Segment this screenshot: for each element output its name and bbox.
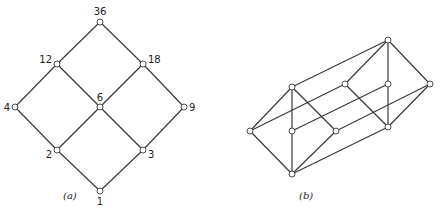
node-label-12: 12	[39, 54, 52, 65]
edge-3-1	[100, 150, 143, 191]
edge-2-1	[57, 150, 100, 191]
edge-T1-T2	[292, 40, 388, 87]
node-T2	[385, 37, 391, 43]
node-C1	[289, 128, 295, 134]
edge-R2-B2	[388, 84, 430, 127]
node-T1	[289, 84, 295, 90]
edge-6-3	[100, 107, 143, 150]
node-36	[97, 19, 103, 25]
node-L2	[342, 81, 348, 87]
node-R2	[427, 81, 433, 87]
lattice-figure: 361218469231 (a) (b)	[0, 0, 440, 211]
node-18	[140, 61, 146, 67]
edge-L2-B2	[345, 84, 388, 127]
node-2	[54, 147, 60, 153]
node-B1	[289, 171, 295, 177]
node-4	[12, 104, 18, 110]
node-label-3: 3	[148, 149, 154, 160]
edge-36-18	[100, 22, 143, 64]
node-B2	[385, 124, 391, 130]
edge-6-2	[57, 107, 100, 150]
edge-12-6	[57, 64, 100, 107]
edge-36-12	[57, 22, 100, 64]
edge-T2-L2	[345, 40, 388, 84]
edge-C1-C2	[292, 84, 388, 131]
divisor-lattice-diagram-a: 361218469231 (a)	[4, 6, 196, 207]
node-label-6: 6	[97, 92, 103, 103]
node-R1	[333, 128, 339, 134]
edge-9-3	[143, 107, 184, 150]
edge-T2-R2	[388, 40, 430, 84]
node-label-2: 2	[46, 149, 52, 160]
caption-a: (a)	[63, 190, 77, 201]
node-label-4: 4	[4, 102, 10, 113]
node-1	[97, 188, 103, 194]
node-L1	[247, 128, 253, 134]
node-label-9: 9	[189, 102, 195, 113]
node-6	[97, 104, 103, 110]
edge-L1-L2	[250, 84, 345, 131]
edge-4-2	[15, 107, 57, 150]
edge-T1-L1	[250, 87, 292, 131]
node-12	[54, 61, 60, 67]
edge-R1-R2	[336, 84, 430, 131]
edge-18-6	[100, 64, 143, 107]
caption-b: (b)	[299, 190, 313, 201]
edge-L1-B1	[250, 131, 292, 174]
node-label-36: 36	[94, 6, 107, 17]
edge-18-9	[143, 64, 184, 107]
edge-T1-R1	[292, 87, 336, 131]
node-3	[140, 147, 146, 153]
edge-B1-B2	[292, 127, 388, 174]
lattice-edges	[250, 40, 430, 174]
node-label-18: 18	[148, 54, 161, 65]
node-label-1: 1	[97, 196, 103, 207]
edge-R1-B1	[292, 131, 336, 174]
lattice-nodes	[12, 19, 187, 194]
node-C2	[385, 81, 391, 87]
prism-lattice-diagram-b: (b)	[247, 37, 433, 201]
edge-12-4	[15, 64, 57, 107]
node-9	[181, 104, 187, 110]
